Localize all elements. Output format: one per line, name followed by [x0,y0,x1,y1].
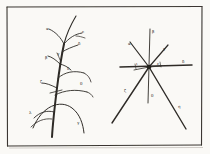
scanned-figure-plate: α ε δ β γ δ ζ θ λ γ β α γ ι ε δ ζ θ η [0,0,210,154]
label-left-zeta: ζ [40,79,42,84]
label-right-gamma: γ [163,46,165,51]
label-right-theta: θ [151,93,153,98]
label-right-zeta: ζ [124,88,126,93]
label-left-theta: θ [80,81,82,86]
label-left-delta-upper: δ [78,41,80,46]
label-right-beta: β [152,29,154,34]
paper-tone-wash [0,0,210,154]
ray-center-node [147,65,152,70]
label-right-epsilon: ε [157,61,159,66]
label-right-alpha: α [128,41,131,46]
label-left-gamma-lower: γ [77,120,79,125]
label-left-epsilon: ε [82,29,84,34]
label-left-delta-lower: δ [67,66,69,71]
label-left-beta: β [45,55,47,60]
label-left-lambda: λ [29,110,32,115]
label-right-iota: ι [136,61,138,66]
plate-drawing [0,0,210,154]
label-right-eta: η [178,104,180,109]
label-left-gamma-upper: γ [57,51,59,56]
label-left-alpha: α [46,26,49,31]
label-right-delta: δ [182,59,184,64]
